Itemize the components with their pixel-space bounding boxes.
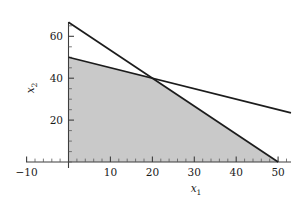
- x-tick-label-10: 10: [104, 166, 117, 178]
- y-tick-label-40: 40: [50, 72, 63, 84]
- y-tick-label-20: 20: [50, 114, 63, 126]
- x-tick-label-40: 40: [230, 166, 243, 178]
- y-tick-label-60: 60: [50, 30, 63, 42]
- y-axis-title: x2: [24, 82, 39, 93]
- x-tick-label-20: 20: [146, 166, 159, 178]
- feasible-region-shading: [69, 57, 279, 162]
- x-axis-title: x1: [191, 182, 202, 197]
- x-tick-label-50: 50: [271, 166, 284, 178]
- plot-canvas: −10 10 20 30 40 50 20 40 60 x1 x2: [0, 0, 299, 199]
- x-tick-label-30: 30: [188, 166, 201, 178]
- x-tick-label-neg10: −10: [16, 166, 38, 178]
- chart-figure: −10 10 20 30 40 50 20 40 60 x1 x2: [0, 0, 299, 199]
